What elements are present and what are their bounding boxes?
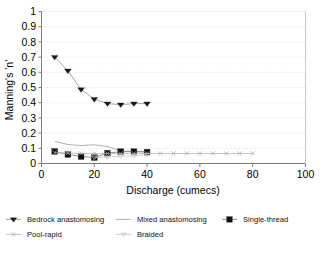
- y-tick-label: 0.4: [21, 96, 36, 108]
- legend-label: Bedrock anastomosing: [27, 215, 104, 224]
- y-tick-label: 0.7: [21, 51, 36, 63]
- y-tick-label: 0.8: [21, 36, 36, 48]
- marker-square: [78, 154, 84, 160]
- x-axis-label: Discharge (cumecs): [126, 184, 219, 196]
- legend-label: Pool-rapid: [27, 230, 62, 239]
- legend-label: Braided: [137, 230, 163, 239]
- legend-label: Single-thread: [243, 215, 288, 224]
- y-tick-label: 0.2: [21, 127, 36, 139]
- x-tick-label: 20: [88, 168, 100, 180]
- x-tick-label: 100: [297, 168, 315, 180]
- marker-square: [65, 152, 71, 158]
- x-tick-label: 60: [194, 168, 206, 180]
- y-tick-label: 0.5: [21, 81, 36, 93]
- marker-square: [52, 149, 58, 155]
- mannings-n-vs-discharge-chart: 00.10.20.30.40.50.60.70.80.91 0204060801…: [0, 0, 330, 254]
- y-tick-label: 0.3: [21, 112, 36, 124]
- y-tick-label: 0.1: [21, 142, 36, 154]
- chart-figure: 00.10.20.30.40.50.60.70.80.91 0204060801…: [0, 0, 330, 254]
- x-tick-label: 0: [39, 168, 45, 180]
- marker-square: [227, 217, 233, 223]
- y-tick-label: 1: [30, 5, 36, 17]
- y-tick-label: 0: [30, 157, 36, 169]
- x-tick-label: 80: [247, 168, 259, 180]
- y-axis-label: Manning's 'n': [3, 60, 15, 120]
- y-tick-label: 0.6: [21, 66, 36, 78]
- legend-label: Mixed anastomosing: [137, 215, 207, 224]
- x-tick-label: 40: [141, 168, 153, 180]
- y-axis-tick-labels: 00.10.20.30.40.50.60.70.80.91: [21, 5, 36, 169]
- y-tick-label: 0.9: [21, 20, 36, 32]
